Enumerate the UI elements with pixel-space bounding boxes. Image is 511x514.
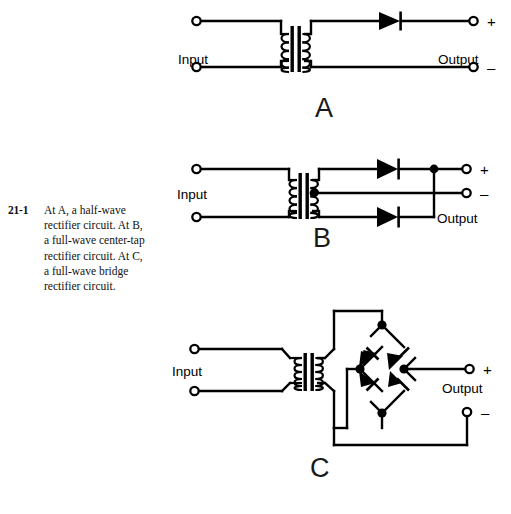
figure-caption-text: At A, a half-wave rectifier circuit. At … — [44, 203, 168, 294]
wire-c-input-top-slope — [282, 349, 290, 358]
caption-line: a full-wave bridge — [44, 264, 168, 279]
terminal-a-input-top[interactable] — [192, 17, 200, 25]
junction-dot-c-top — [377, 320, 386, 329]
circuit-diagram-c: Input Output + – C — [170, 295, 511, 485]
caption-line: rectifier circuit. At C, — [44, 249, 168, 264]
circuit-diagram-a: Input Output + – A — [180, 10, 511, 130]
terminal-c-input-top[interactable] — [190, 345, 198, 353]
junction-dot-c-left — [355, 364, 364, 373]
label-b-input: Input — [177, 188, 207, 202]
caption-line: rectifier circuit. At B, — [44, 218, 168, 233]
terminal-b-input-top[interactable] — [192, 165, 200, 173]
transformer-core-bar-left — [299, 173, 302, 219]
terminal-c-output-minus[interactable] — [463, 408, 471, 416]
transformer-core-bar-right — [298, 26, 301, 72]
panel-letter-c: C — [310, 455, 330, 482]
diode-b1 — [377, 159, 399, 180]
junction-dot-c-right — [399, 364, 408, 373]
terminal-c-output-plus[interactable] — [465, 365, 473, 373]
junction-dot-c-bottom — [377, 408, 386, 417]
transformer-secondary-coil — [302, 34, 311, 72]
label-b-minus: – — [480, 186, 488, 201]
transformer-primary-coil — [281, 34, 289, 72]
transformer-a — [281, 26, 311, 72]
circuit-a-svg — [180, 10, 511, 130]
bridge-arm-top-right — [382, 325, 404, 347]
panel-letter-b: B — [313, 225, 331, 252]
figure-number: 21-1 — [8, 203, 28, 218]
diode-b2 — [377, 207, 399, 228]
transformer-core-bar-right — [306, 173, 309, 219]
caption-line: a full-wave center-tap — [44, 233, 168, 248]
label-b-output: Output — [437, 212, 478, 226]
transformer-primary-coil — [290, 358, 302, 390]
diode-a1 — [379, 12, 401, 31]
transformer-secondary-coil — [310, 180, 319, 218]
junction-dot-b-center-tap — [310, 189, 319, 198]
transformer-core-bar-left — [304, 353, 307, 391]
caption-line: At A, a half-wave — [44, 203, 168, 218]
terminal-b-output-minus[interactable] — [462, 189, 470, 197]
label-a-output: Output — [438, 53, 479, 67]
label-c-minus: – — [481, 405, 489, 420]
wire-c-secondary-bottom-lead — [325, 383, 334, 391]
wire-c-secondary-top-lead — [325, 349, 334, 358]
caption-line: rectifier circuit. — [44, 279, 168, 294]
terminal-b-input-bottom[interactable] — [192, 213, 200, 221]
diode-c4-cathode-bar — [397, 379, 409, 391]
circuit-diagram-b: Input Output + – B — [175, 155, 511, 260]
transformer-c — [290, 353, 325, 391]
transformer-primary-coil — [289, 180, 297, 218]
terminal-b-output-plus[interactable] — [462, 165, 470, 173]
diode-c2-cathode-bar — [397, 348, 409, 360]
transformer-core-bar-right — [311, 353, 314, 391]
label-c-input: Input — [172, 365, 202, 379]
diode-c4-lower-right — [388, 371, 409, 391]
terminal-c-input-bottom[interactable] — [190, 387, 198, 395]
label-a-plus: + — [487, 14, 496, 29]
label-a-minus: – — [487, 60, 495, 75]
label-b-plus: + — [480, 162, 489, 177]
circuit-b-svg — [175, 155, 511, 260]
transformer-secondary-coil — [315, 358, 325, 390]
terminal-a-output-plus[interactable] — [469, 17, 477, 25]
transformer-core-bar-left — [291, 26, 294, 72]
junction-dot-b-plus-node — [430, 165, 439, 174]
label-c-plus: + — [483, 362, 492, 377]
label-a-input: Input — [178, 53, 208, 67]
label-c-output: Output — [442, 382, 483, 396]
diode-c3-lower-left — [359, 371, 379, 391]
bridge-arm-bottom-right — [382, 391, 404, 413]
wire-c-input-bottom-slope — [282, 383, 290, 391]
panel-letter-a: A — [315, 95, 333, 122]
